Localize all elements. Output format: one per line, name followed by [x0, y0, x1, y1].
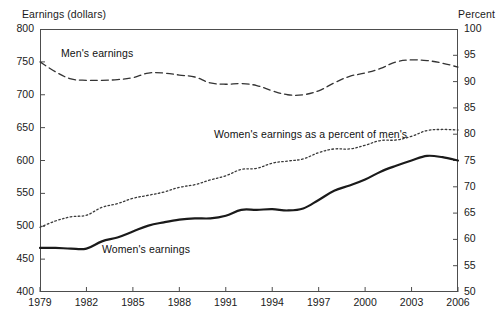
- right-tick-label: 80: [464, 127, 476, 139]
- x-tick-label: 2003: [392, 296, 432, 308]
- right-tick-label: 55: [464, 259, 476, 271]
- right-tick-label: 60: [464, 232, 476, 244]
- x-tick-label: 1994: [252, 296, 292, 308]
- chart-figure: Earnings (dollars) Percent 4004505005506…: [0, 0, 501, 321]
- x-tick-label: 1988: [159, 296, 199, 308]
- x-tick-label: 1979: [20, 296, 60, 308]
- right-tick-label: 95: [464, 48, 476, 60]
- right-tick-label: 100: [464, 22, 482, 34]
- left-tick-label: 700: [2, 88, 34, 100]
- right-tick-label: 85: [464, 101, 476, 113]
- left-axis-title: Earnings (dollars): [22, 8, 106, 20]
- series-label-percent-of-mens: Women's earnings as a percent of men's: [214, 128, 407, 140]
- right-tick-label: 65: [464, 206, 476, 218]
- left-tick-label: 550: [2, 186, 34, 198]
- left-tick-label: 750: [2, 55, 34, 67]
- x-tick-label: 2000: [345, 296, 385, 308]
- series-label-womens-earnings: Women's earnings: [102, 243, 190, 255]
- left-tick-label: 800: [2, 22, 34, 34]
- x-tick-label: 1985: [113, 296, 153, 308]
- right-axis-title: Percent: [458, 8, 495, 20]
- series-label-mens-earnings: Men's earnings: [61, 47, 133, 59]
- right-tick-label: 75: [464, 154, 476, 166]
- left-tick-label: 650: [2, 121, 34, 133]
- x-tick-label: 1997: [299, 296, 339, 308]
- left-tick-label: 500: [2, 219, 34, 231]
- x-tick-label: 2006: [438, 296, 478, 308]
- left-tick-label: 450: [2, 252, 34, 264]
- x-tick-label: 1991: [206, 296, 246, 308]
- left-tick-label: 600: [2, 154, 34, 166]
- right-tick-label: 70: [464, 180, 476, 192]
- x-tick-label: 1982: [66, 296, 106, 308]
- right-tick-label: 90: [464, 75, 476, 87]
